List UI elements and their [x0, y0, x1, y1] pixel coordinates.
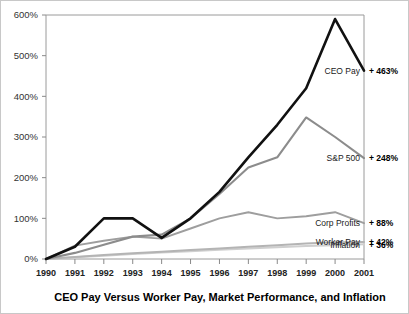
- x-tick-label: 2001: [354, 268, 374, 278]
- y-tick-label: 0%: [24, 253, 38, 264]
- series-name-label-ceo-pay: CEO Pay: [325, 66, 361, 76]
- x-tick-label: 1990: [36, 268, 56, 278]
- chart-title: CEO Pay Versus Worker Pay, Market Perfor…: [54, 291, 386, 303]
- y-axis: 0%100%200%300%400%500%600%: [14, 9, 46, 264]
- y-tick-label: 200%: [14, 172, 39, 183]
- x-tick-label: 1999: [296, 268, 316, 278]
- series-name-label-s-p-500: S&P 500: [327, 153, 361, 163]
- series-value-label-ceo-pay: + 463%: [369, 66, 399, 76]
- x-tick-label: 1996: [209, 268, 229, 278]
- x-tick-label: 1994: [152, 268, 172, 278]
- x-tick-label: 1998: [267, 268, 287, 278]
- x-tick-label: 1995: [181, 268, 201, 278]
- chart-container: 0%100%200%300%400%500%600%19901991199219…: [0, 0, 409, 314]
- y-tick-label: 300%: [14, 131, 39, 142]
- x-axis: 1990199119921993199419951996199719981999…: [36, 259, 374, 278]
- x-tick-label: 2000: [325, 268, 345, 278]
- series-value-label-inflation: + 36%: [369, 240, 394, 250]
- x-tick-label: 1992: [94, 268, 114, 278]
- series-value-label-corp-profits: + 88%: [369, 218, 394, 228]
- y-tick-label: 600%: [14, 9, 39, 20]
- series-end-labels: CEO Pay+ 463%S&P 500+ 248%Corp Profits+ …: [315, 66, 398, 250]
- x-tick-label: 1991: [65, 268, 85, 278]
- y-tick-label: 400%: [14, 91, 39, 102]
- x-tick-label: 1993: [123, 268, 143, 278]
- line-chart: 0%100%200%300%400%500%600%19901991199219…: [1, 1, 409, 314]
- series-value-label-s-p-500: + 248%: [369, 153, 399, 163]
- series-name-label-corp-profits: Corp Profits: [315, 218, 360, 228]
- x-tick-label: 1997: [238, 268, 258, 278]
- y-tick-label: 500%: [14, 50, 39, 61]
- series-name-label-inflation: Inflation: [330, 240, 360, 250]
- y-tick-label: 100%: [14, 213, 39, 224]
